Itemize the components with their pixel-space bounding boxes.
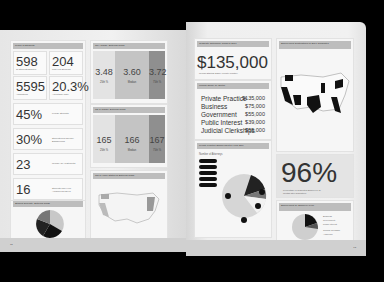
lsat-label: 25th % bbox=[93, 149, 115, 152]
stat-label: 1L Students Enrolled bbox=[16, 68, 36, 71]
sector-name: Public Interest bbox=[201, 119, 242, 126]
left-page-footer: 12 bbox=[0, 238, 186, 252]
employment-map-panel: Employment Destinations of 2017 Graduate… bbox=[276, 38, 354, 152]
salary-by-sector-panel: Median Salary by Sector Private Practice… bbox=[194, 80, 272, 140]
employment-rate-label: Percentage of Graduates Employed 10 mont… bbox=[283, 189, 323, 195]
salary-by-sector-header: Median Salary by Sector bbox=[197, 83, 269, 89]
stat-label: First Year Students bbox=[52, 68, 70, 71]
sector-name: Business bbox=[201, 103, 227, 110]
page-number: 13 bbox=[353, 246, 356, 249]
median-salary-header: Graduate Outcomes: Class of 2017 bbox=[197, 41, 269, 47]
legend-pill bbox=[199, 183, 217, 187]
right-page-footer: 13 bbox=[186, 240, 366, 256]
median-salary-value: $135,000 bbox=[197, 53, 268, 73]
legend-item: Business bbox=[323, 215, 332, 218]
private-practice-panel: Private Practice Employment by Firm Size… bbox=[194, 140, 272, 238]
stat-label: Female Students bbox=[52, 112, 69, 115]
stat-label: Students from Diverse Backgrounds bbox=[52, 137, 80, 143]
legend-pill bbox=[199, 159, 217, 163]
sector-salary: $39,000 bbox=[245, 119, 265, 125]
gpa-header: GPA Range, Entering Class bbox=[93, 43, 165, 49]
class-profile-panel: Profile of Students 598 1L Students Enro… bbox=[10, 40, 86, 212]
employment-map-header: Employment Destinations of 2017 Graduate… bbox=[279, 41, 351, 49]
stat-label: Median Age of Students bbox=[52, 162, 75, 165]
stat-value: 20.3% bbox=[52, 79, 89, 94]
private-practice-subtitle: Number of Attorneys bbox=[199, 153, 223, 156]
gpa-value: 3.60 bbox=[115, 67, 149, 77]
gpa-columns: 3.48 25th % 3.60 Median 3.72 75th % bbox=[93, 51, 165, 99]
stat-card: 5595 Applications bbox=[13, 76, 47, 100]
sector-row: Government$55,000 bbox=[201, 111, 265, 119]
employment-us-map bbox=[279, 69, 351, 119]
state-washington bbox=[101, 194, 109, 199]
stat-card: 598 1L Students Enrolled bbox=[13, 51, 47, 75]
home-states-header: Top 5 Home States of Entering Class bbox=[93, 173, 165, 179]
sector-row: Judicial Clerkships$55,000 bbox=[201, 127, 265, 135]
state-illinois bbox=[321, 83, 325, 93]
median-salary-panel: Graduate Outcomes: Class of 2017 $135,00… bbox=[194, 38, 272, 80]
pie-marker bbox=[255, 203, 261, 209]
legend-item: Judicial Clerkship bbox=[323, 229, 340, 232]
right-page: Graduate Outcomes: Class of 2017 $135,00… bbox=[186, 22, 366, 256]
gpa-label: 25th % bbox=[93, 81, 115, 84]
stat-value: 204 bbox=[52, 54, 74, 69]
lsat-value: 167 bbox=[149, 135, 165, 145]
lsat-value: 165 bbox=[93, 135, 115, 145]
private-practice-header: Private Practice Employment by Firm Size bbox=[197, 143, 269, 149]
us-map bbox=[97, 189, 161, 229]
class-profile-header: Profile of Students bbox=[13, 43, 83, 49]
lsat-header: LSAT Range, Entering Class bbox=[93, 107, 165, 113]
stat-label: Applications bbox=[16, 93, 28, 96]
left-page: Profile of Students 598 1L Students Enro… bbox=[0, 30, 186, 252]
legend-pill bbox=[199, 165, 217, 169]
sector-salary: $55,000 bbox=[245, 111, 265, 117]
gpa-label: 75th % bbox=[149, 81, 165, 84]
gpa-label: Median bbox=[115, 81, 149, 84]
pie-marker bbox=[225, 193, 231, 199]
sector-salary: $55,000 bbox=[245, 127, 265, 133]
lsat-label: Median bbox=[115, 149, 149, 152]
lsat-column-median: 166 Median bbox=[115, 115, 149, 163]
legend-pill bbox=[199, 177, 217, 181]
sector-salary: $135,000 bbox=[242, 95, 265, 101]
lsat-columns: 165 25th % 166 Median 167 75th % bbox=[93, 115, 165, 163]
lsat-panel: LSAT Range, Entering Class 165 25th % 16… bbox=[90, 104, 168, 168]
stat-card: 204 First Year Students bbox=[49, 51, 83, 75]
employment-rate-panel: 96% Percentage of Graduates Employed 10 … bbox=[276, 154, 354, 198]
state-washington bbox=[285, 75, 293, 81]
legend-pill bbox=[199, 171, 217, 175]
pie-marker bbox=[259, 189, 265, 195]
stat-label: Acceptance Rate bbox=[52, 93, 69, 96]
stat-value: 30% bbox=[16, 132, 42, 147]
lsat-label: 75th % bbox=[149, 149, 165, 152]
diversity-pie-chart bbox=[35, 209, 65, 239]
sector-name: Government bbox=[201, 111, 237, 118]
state-texas bbox=[307, 95, 321, 113]
employment-type-header: Employment by Employer Type bbox=[279, 203, 351, 211]
sector-row: Private Practice$135,000 bbox=[201, 95, 265, 103]
employment-type-panel: Employment by Employer Type Business Gov… bbox=[276, 200, 354, 244]
stat-value: 16 bbox=[16, 182, 30, 197]
legend-item: Public Interest bbox=[323, 223, 337, 226]
employment-rate-value: 96% bbox=[281, 157, 337, 189]
sector-salary: $75,000 bbox=[245, 103, 265, 109]
gpa-value: 3.48 bbox=[93, 67, 115, 77]
stat-card: 16 Students Who Hold Advanced Degrees bbox=[13, 178, 83, 200]
stat-value: 598 bbox=[16, 54, 38, 69]
lsat-column-25th: 165 25th % bbox=[93, 115, 115, 163]
employment-type-pie bbox=[291, 213, 319, 241]
gpa-column-25th: 3.48 25th % bbox=[93, 51, 115, 99]
home-states-panel: Top 5 Home States of Entering Class bbox=[90, 170, 168, 244]
stat-card: 23 Median Age of Students bbox=[13, 153, 83, 175]
legend-item: Government bbox=[323, 219, 335, 222]
stat-value: 45% bbox=[16, 107, 42, 122]
stat-card: 45% Female Students bbox=[13, 103, 83, 125]
stat-card: 20.3% Acceptance Rate bbox=[49, 76, 83, 100]
legend-item: Academic bbox=[323, 233, 333, 236]
median-salary-label: Median Starting Salary: Private Practice bbox=[199, 72, 238, 75]
stat-card: 30% Students from Diverse Backgrounds bbox=[13, 128, 83, 150]
lsat-value: 166 bbox=[115, 135, 149, 145]
pie-marker bbox=[241, 217, 247, 223]
sector-row: Public Interest$39,000 bbox=[201, 119, 265, 127]
lsat-column-75th: 167 75th % bbox=[149, 115, 165, 163]
